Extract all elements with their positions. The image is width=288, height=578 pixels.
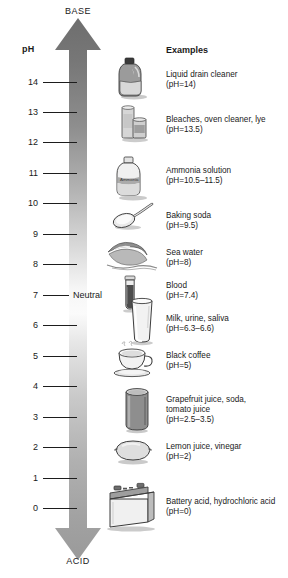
- example-name: Liquid drain cleaner: [166, 70, 288, 80]
- example-entry: Lemon juice, vinegar(pH=2): [166, 442, 288, 462]
- example-entry: Ammonia solution(pH=10.5–11.5): [166, 166, 288, 186]
- ph-tick-mark-9: [43, 234, 77, 235]
- ph-tick-mark-3: [43, 417, 77, 418]
- example-name: Baking soda: [166, 211, 288, 221]
- examples-column-header: Examples: [166, 45, 208, 55]
- ph-tick-mark-5: [43, 356, 77, 357]
- ph-tick-mark-7: [43, 295, 69, 296]
- example-name: Ammonia solution: [166, 166, 288, 176]
- ph-tick-mark-12: [43, 142, 77, 143]
- ph-tick-label-8: 8: [18, 260, 38, 269]
- example-entry: Bleaches, oven cleaner, lye(pH=13.5): [166, 115, 288, 135]
- example-ph-value: (pH=14): [166, 80, 288, 90]
- ph-tick-label-7: 7: [18, 291, 38, 300]
- example-ph-value: (pH=5): [166, 361, 288, 371]
- ph-tick-label-4: 4: [18, 382, 38, 391]
- example-name: Grapefruit juice, soda,: [166, 395, 288, 405]
- example-ph-value: (pH=0): [166, 507, 288, 517]
- example-ph-value: (pH=8): [166, 258, 288, 268]
- example-entry: Sea water(pH=8): [166, 248, 288, 268]
- ph-tick-label-10: 10: [18, 199, 38, 208]
- neutral-label: Neutral: [73, 291, 102, 300]
- ph-tick-label-11: 11: [18, 169, 38, 178]
- example-name: Black coffee: [166, 351, 288, 361]
- ph-tick-label-3: 3: [18, 413, 38, 422]
- ph-tick-mark-2: [43, 447, 77, 448]
- ph-tick-label-13: 13: [18, 108, 38, 117]
- ph-tick-mark-4: [43, 386, 77, 387]
- car-battery-icon: [104, 481, 160, 533]
- soda-can-icon: [122, 388, 152, 434]
- example-entry: Black coffee(pH=5): [166, 351, 288, 371]
- example-ph-value: (pH=6.3–6.6): [166, 324, 288, 334]
- lemon-icon: [112, 436, 156, 466]
- example-entry: Blood(pH=7.4): [166, 281, 288, 301]
- example-entry: Baking soda(pH=9.5): [166, 211, 288, 231]
- example-name: Sea water: [166, 248, 288, 258]
- example-ph-value: (pH=2.5–3.5): [166, 415, 288, 425]
- ph-tick-label-14: 14: [18, 78, 38, 87]
- example-ph-value: (pH=9.5): [166, 221, 288, 231]
- svg-text:Ammonia: Ammonia: [120, 177, 139, 182]
- example-entry: Battery acid, hydrochloric acid(pH=0): [166, 497, 288, 517]
- example-entry: Milk, urine, saliva(pH=6.3–6.6): [166, 314, 288, 334]
- example-name: Bleaches, oven cleaner, lye: [166, 115, 288, 125]
- ph-scale-diagram: BASE pH: [0, 0, 288, 578]
- example-ph-value: (pH=13.5): [166, 125, 288, 135]
- wave-icon: [106, 238, 158, 270]
- ph-tick-label-6: 6: [18, 321, 38, 330]
- jug-bottle-icon: [114, 56, 148, 100]
- ph-tick-mark-13: [43, 112, 77, 113]
- ph-tick-mark-10: [43, 203, 77, 204]
- ph-tick-mark-8: [43, 264, 77, 265]
- example-name: Lemon juice, vinegar: [166, 442, 288, 452]
- example-name: Milk, urine, saliva: [166, 314, 288, 324]
- example-name: Battery acid, hydrochloric acid: [166, 497, 288, 507]
- ph-tick-mark-1: [43, 478, 77, 479]
- glass-icon: [128, 298, 156, 346]
- spoon-icon: [112, 202, 156, 232]
- example-ph-value: (pH=10.5–11.5): [166, 176, 288, 186]
- ph-tick-mark-14: [43, 82, 77, 83]
- ph-tick-mark-6: [43, 325, 77, 326]
- acid-end-label: ACID: [43, 556, 113, 566]
- ph-tick-label-9: 9: [18, 230, 38, 239]
- example-name: Blood: [166, 281, 288, 291]
- example-name-cont: tomato juice: [166, 405, 288, 415]
- ph-tick-label-2: 2: [18, 443, 38, 452]
- spray-cans-icon: [118, 105, 152, 143]
- ph-tick-label-0: 0: [18, 504, 38, 513]
- ph-tick-mark-0: [43, 508, 77, 509]
- ph-axis-title: pH: [22, 44, 34, 54]
- ph-tick-label-12: 12: [18, 138, 38, 147]
- example-entry: Liquid drain cleaner(pH=14): [166, 70, 288, 90]
- example-ph-value: (pH=2): [166, 452, 288, 462]
- ammonia-bottle-icon: Ammonia: [112, 156, 150, 201]
- example-ph-value: (pH=7.4): [166, 291, 288, 301]
- ph-tick-label-5: 5: [18, 352, 38, 361]
- ph-tick-label-1: 1: [18, 474, 38, 483]
- ph-tick-mark-11: [43, 173, 77, 174]
- example-entry: Grapefruit juice, soda,tomato juice(pH=2…: [166, 395, 288, 426]
- coffee-cup-icon: [112, 342, 156, 378]
- base-end-label: BASE: [43, 6, 113, 16]
